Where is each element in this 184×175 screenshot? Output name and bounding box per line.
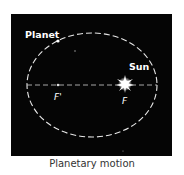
sun-label: Sun <box>129 61 150 72</box>
sun-icon <box>116 75 134 93</box>
empty-focus-dot <box>57 84 60 87</box>
figure-caption: Planetary motion <box>0 158 184 169</box>
planet-label: Planet <box>25 29 60 40</box>
focus-empty-label: F' <box>54 92 62 102</box>
focus-sun-label: F <box>122 96 128 106</box>
background-star <box>74 50 75 51</box>
background-star <box>122 150 123 151</box>
orbit-diagram: F' Sun F Planet <box>0 0 184 175</box>
